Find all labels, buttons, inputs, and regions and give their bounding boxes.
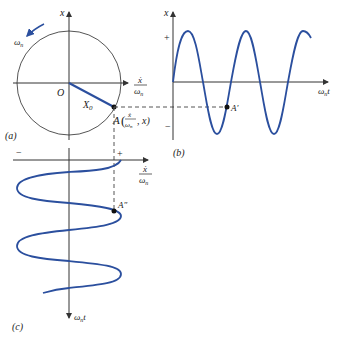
rotation-label: ωn <box>14 37 23 48</box>
svg-text:A: A <box>112 114 120 126</box>
b-plus-label: + <box>164 32 170 43</box>
panel-b: x + − A′ ωnt (b) <box>163 7 330 159</box>
rotation-arrow-icon <box>27 24 44 36</box>
panel-c-label: (c) <box>12 321 24 333</box>
c-axis-y-label: ωnt <box>74 312 86 323</box>
panel-b-label: (b) <box>173 147 185 159</box>
b-axis-y-label: x <box>163 7 169 18</box>
svg-text:ωn: ωn <box>125 121 133 129</box>
svg-text:ẋ: ẋ <box>127 111 132 119</box>
svg-text:ẋ: ẋ <box>142 164 147 174</box>
c-minus-label: − <box>16 147 22 158</box>
panel-a: x ωn O X0 ẋ ωn A ( ẋ ωn , x) (a) <box>5 7 150 142</box>
panel-c: − + ẋ ωn A″ ωnt (c) <box>12 147 152 333</box>
origin-label: O <box>57 87 64 98</box>
c-axis-x-label: ẋ ωn <box>139 164 152 186</box>
point-a-prime-label: A′ <box>230 103 239 113</box>
point-a-double-prime-label: A″ <box>117 200 127 210</box>
c-plus-label: + <box>117 148 123 159</box>
svg-text:ωn: ωn <box>139 175 148 186</box>
panel-a-label: (a) <box>5 130 17 142</box>
b-minus-label: − <box>165 121 171 132</box>
svg-text:ẋ: ẋ <box>137 75 142 85</box>
radius-label: X0 <box>82 99 93 112</box>
point-a-label: A ( ẋ ωn , x) <box>112 111 150 129</box>
phase-plane-diagram: x ωn O X0 ẋ ωn A ( ẋ ωn , x) (a) x + − A… <box>0 0 342 344</box>
a-axis-y-label: x <box>59 7 65 18</box>
a-axis-x-label: ẋ ωn <box>134 75 147 97</box>
svg-text:ωn: ωn <box>134 86 143 97</box>
b-axis-x-label: ωnt <box>318 86 330 97</box>
point-a-double-prime <box>112 209 117 214</box>
svg-text:, x): , x) <box>137 115 150 127</box>
point-a-prime <box>225 105 230 110</box>
